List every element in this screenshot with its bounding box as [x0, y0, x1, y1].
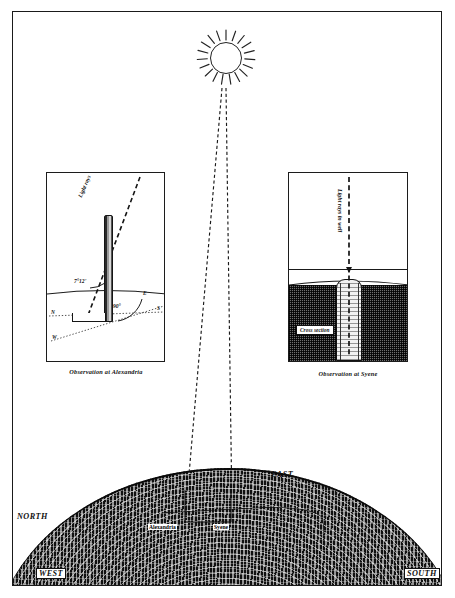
compass-east: EAST — [271, 470, 293, 479]
obelisk-shadow — [72, 313, 106, 322]
compass-west: WEST — [36, 568, 66, 579]
globe-section: Alexandria Syene — [13, 460, 441, 585]
light-rays-in-well-label: Light rays in well — [337, 189, 343, 232]
city-label-syene: Syene — [213, 524, 229, 530]
caption-syene: Observation at Syene — [268, 370, 428, 377]
axis-label-south: S — [157, 305, 160, 311]
panel-syene: Light rays in well Cross section — [288, 172, 408, 362]
compass-north: NORTH — [17, 512, 48, 521]
ray-arrowhead — [346, 267, 352, 273]
city-label-alexandria: Alexandria — [148, 524, 177, 530]
compass-south: SOUTH — [404, 568, 440, 579]
ground-angle-label: 90° — [113, 303, 121, 309]
panel-alexandria: Light rays 7°12' 90° N S E W — [46, 172, 165, 362]
light-ray-line — [87, 177, 140, 318]
city-markers — [13, 460, 441, 585]
sun-disc — [210, 42, 242, 74]
shadow-angle-label: 7°12' — [74, 278, 86, 284]
axis-label-west: W — [52, 334, 57, 340]
figure-canvas: Light rays 7°12' 90° N S E W Observation… — [0, 0, 455, 598]
axis-label-north: N — [51, 309, 55, 315]
angle-arc-712 — [90, 283, 105, 288]
axis-label-east: E — [143, 290, 147, 296]
obelisk — [104, 215, 113, 322]
sun-group — [196, 28, 256, 88]
caption-alexandria: Observation at Alexandria — [26, 368, 186, 375]
angle-arc-90 — [118, 299, 142, 321]
cross-section-label: Cross section — [296, 325, 334, 335]
